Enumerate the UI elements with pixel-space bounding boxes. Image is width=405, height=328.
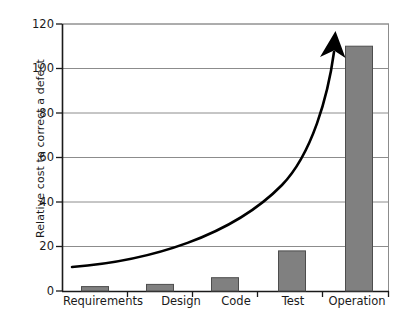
bar-requirements[interactable]	[82, 287, 109, 291]
bar-operation[interactable]	[346, 46, 373, 291]
plot-area	[0, 0, 405, 328]
bar-code[interactable]	[212, 278, 239, 291]
trend-arrow-annotation	[72, 31, 346, 267]
y-axis-ticks	[56, 24, 62, 291]
bar-design[interactable]	[147, 284, 174, 291]
relative-cost-bar-chart: Relative cost to correct a defect 120 10…	[0, 0, 405, 328]
trend-curve	[72, 52, 334, 267]
bar-test[interactable]	[279, 251, 306, 291]
gridlines	[62, 24, 389, 247]
